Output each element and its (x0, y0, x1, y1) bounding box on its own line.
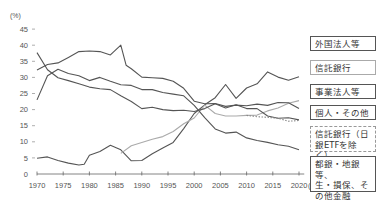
legend-trust: 信託銀行 (310, 60, 376, 75)
legend-label: 生・損保、そ (315, 180, 371, 191)
legend-label: の他金融 (315, 191, 371, 200)
legend-banks: 都銀・地銀等、 生・損保、そ の他金融 (310, 156, 376, 192)
y-unit-label: (%) (10, 12, 21, 20)
x-tick-label: 1980 (81, 181, 98, 190)
y-tick-label: 0 (24, 170, 28, 179)
y-tick-label: 30 (20, 73, 28, 82)
x-tick-label: 1970 (29, 181, 46, 190)
y-tick-label: 25 (20, 89, 28, 98)
y-tick-label: 35 (20, 57, 28, 66)
x-tick-label: 2020 (291, 181, 308, 190)
legend-label: 事業法人等 (315, 87, 360, 97)
legend-label: 信託銀行 (315, 63, 351, 73)
x-tick-label: 2000 (186, 181, 203, 190)
series-line (37, 72, 299, 165)
legend-label: 都銀・地銀等、 (315, 159, 371, 180)
legend-individual: 個人・その他 (310, 105, 376, 120)
x-tick-label: 1975 (55, 181, 72, 190)
series-line (37, 53, 299, 120)
y-tick-label: 10 (20, 137, 28, 146)
series-line (37, 45, 299, 108)
y-tick-label: 15 (20, 121, 28, 130)
x-axis: 1970197519801985199019952000200520102015… (29, 172, 328, 191)
x-tick-label: 1990 (133, 181, 150, 190)
x-tick-label: 1985 (107, 181, 124, 190)
y-axis: (%)051015202530354045 (10, 12, 35, 179)
legend-trust-ex-boj: 信託銀行（日 銀ETFを除く） (310, 126, 376, 152)
legend-foreign: 外国法人等 (310, 36, 376, 51)
legend-label: 信託銀行（日 (315, 129, 371, 140)
legend-label: 個人・その他 (315, 108, 369, 118)
chart-series (37, 45, 299, 165)
x-tick-label: 2005 (212, 181, 229, 190)
x-tick-label: 2010 (238, 181, 255, 190)
legend-business: 事業法人等 (310, 84, 376, 99)
y-tick-label: 5 (24, 154, 28, 163)
y-tick-label: 20 (20, 105, 28, 114)
y-tick-label: 45 (20, 25, 28, 34)
legend-label: 外国法人等 (315, 39, 360, 49)
x-tick-label: 1995 (160, 181, 177, 190)
y-tick-label: 40 (20, 41, 28, 50)
series-line (121, 101, 299, 154)
x-tick-label: 2015 (264, 181, 281, 190)
